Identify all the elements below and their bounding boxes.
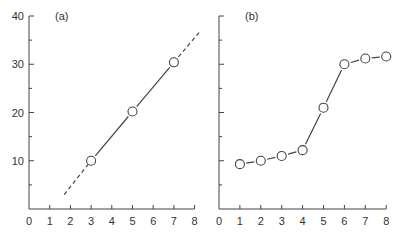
data-point bbox=[382, 52, 391, 61]
x-tick-label: 6 bbox=[150, 215, 156, 227]
data-line bbox=[267, 157, 275, 159]
y-tick-label: 20 bbox=[12, 107, 24, 119]
panel-label: (b) bbox=[245, 10, 258, 22]
x-tick-label: 1 bbox=[237, 215, 243, 227]
y-tick-label: 40 bbox=[12, 10, 24, 22]
panel-label: (a) bbox=[55, 10, 68, 22]
data-point bbox=[298, 146, 307, 155]
data-line bbox=[95, 117, 128, 156]
x-tick-label: 4 bbox=[300, 215, 306, 227]
panel-b: 012345678(b) bbox=[216, 10, 391, 227]
x-tick-label: 6 bbox=[341, 215, 347, 227]
data-point bbox=[340, 60, 349, 69]
y-tick-label: 30 bbox=[12, 58, 24, 70]
data-point bbox=[128, 107, 137, 116]
x-tick-label: 7 bbox=[362, 215, 368, 227]
data-point bbox=[319, 103, 328, 112]
data-line bbox=[137, 67, 170, 106]
x-tick-label: 1 bbox=[47, 215, 53, 227]
chart: 10203040012345678(a) 012345678(b) bbox=[0, 0, 399, 234]
x-tick-label: 2 bbox=[67, 215, 73, 227]
x-tick-label: 5 bbox=[129, 215, 135, 227]
data-line bbox=[372, 57, 380, 58]
data-point bbox=[235, 160, 244, 169]
dashed-extrapolation bbox=[174, 30, 201, 62]
data-line bbox=[305, 114, 320, 145]
y-tick-label: 10 bbox=[12, 155, 24, 167]
x-tick-label: 0 bbox=[26, 215, 32, 227]
x-tick-label: 5 bbox=[320, 215, 326, 227]
data-line bbox=[351, 60, 359, 62]
data-line bbox=[288, 152, 296, 154]
dashed-extrapolation bbox=[64, 161, 91, 195]
data-point bbox=[277, 151, 286, 160]
data-point bbox=[361, 54, 370, 63]
data-point bbox=[87, 156, 96, 165]
panel-a: 10203040012345678(a) bbox=[12, 10, 201, 227]
x-tick-label: 7 bbox=[171, 215, 177, 227]
x-tick-label: 0 bbox=[216, 215, 222, 227]
x-tick-label: 2 bbox=[258, 215, 264, 227]
data-line bbox=[326, 70, 341, 102]
x-tick-label: 3 bbox=[88, 215, 94, 227]
data-point bbox=[169, 58, 178, 67]
x-tick-label: 8 bbox=[383, 215, 389, 227]
x-tick-label: 3 bbox=[279, 215, 285, 227]
x-tick-label: 4 bbox=[109, 215, 115, 227]
data-point bbox=[256, 156, 265, 165]
x-tick-label: 8 bbox=[192, 215, 198, 227]
data-line bbox=[246, 162, 254, 163]
